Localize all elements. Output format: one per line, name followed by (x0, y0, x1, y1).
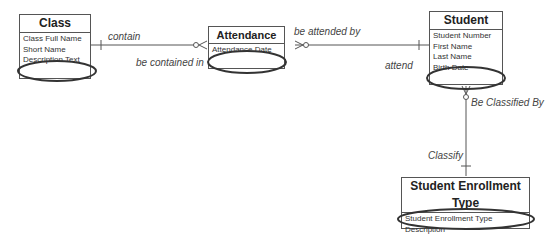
student-highlight-ellipse (427, 67, 505, 89)
type-highlight-ellipse (398, 209, 534, 229)
highlight-ellipses (0, 0, 560, 241)
relationship-label-attend: attend (385, 60, 413, 71)
attendance-highlight-ellipse (208, 51, 286, 73)
relationship-label-be-contained-in: be contained in (136, 57, 204, 68)
relationship-label-be-classified-by: Be Classified By (471, 97, 544, 108)
relationship-label-be-attended-by: be attended by (294, 26, 360, 37)
relationship-label-contain: contain (108, 31, 140, 42)
class-highlight-ellipse (18, 61, 96, 81)
relationship-label-classify: Classify (428, 150, 463, 161)
